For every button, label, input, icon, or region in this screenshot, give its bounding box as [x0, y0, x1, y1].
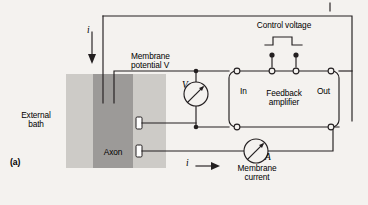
- bath-electrode-lower: [136, 145, 142, 157]
- amp-out-label: Out: [317, 87, 330, 96]
- membrane-current-label: Membrane current: [217, 164, 297, 183]
- current-in-label: i: [87, 25, 90, 36]
- bath-electrode-upper: [136, 117, 142, 129]
- amp-in-label: In: [240, 87, 247, 96]
- amp-terminal-out-upper[interactable]: [328, 68, 334, 74]
- feedback-amplifier-label: Feedback amplifier: [243, 89, 325, 108]
- wire-ammeter-to-amp-out: [268, 127, 339, 151]
- amp-terminal-in-upper[interactable]: [234, 68, 240, 74]
- amp-terminal-control-left[interactable]: [269, 68, 275, 74]
- axon-label: Axon: [93, 148, 133, 157]
- junction-dot-control-left: [269, 52, 274, 57]
- amp-terminal-control-right[interactable]: [293, 68, 299, 74]
- current-out-label: i: [186, 158, 189, 169]
- voltage-clamp-figure: (a) External bath Axon Membrane potentia…: [0, 0, 368, 205]
- junction-dot-voltmeter-top: [194, 69, 199, 74]
- amp-terminal-in-lower[interactable]: [234, 124, 240, 130]
- panel-label: (a): [10, 158, 20, 168]
- amp-terminal-out-lower[interactable]: [328, 124, 334, 130]
- voltmeter-symbol-label: V: [182, 80, 188, 91]
- junction-dot-voltmeter-bottom: [194, 125, 199, 130]
- membrane-potential-label: Membrane potential V: [131, 52, 170, 71]
- control-voltage-label: Control voltage: [238, 21, 330, 30]
- external-bath-label: External bath: [8, 111, 64, 130]
- arrow-current-in-head: [88, 54, 96, 64]
- control-voltage-pulse-symbol: [265, 37, 302, 45]
- ammeter-symbol-label: A: [265, 152, 271, 163]
- junction-dot-control-right: [293, 52, 298, 57]
